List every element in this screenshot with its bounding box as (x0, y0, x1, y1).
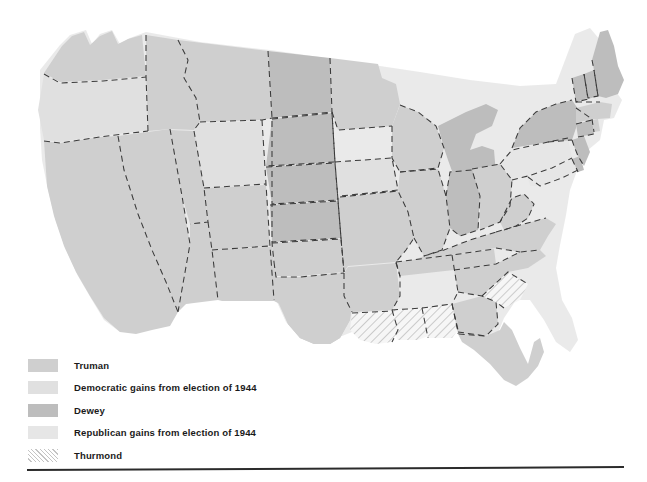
state-SD (266, 113, 335, 166)
election-map-figure: Truman Democratic gains from election of… (0, 0, 647, 482)
state-IN (446, 170, 480, 236)
state-ND (268, 51, 332, 118)
legend-label-dewey: Dewey (74, 406, 105, 416)
thurmond-swatch (28, 449, 58, 462)
dem-gains-swatch (28, 381, 58, 394)
state-NE (266, 163, 338, 204)
state-AR (344, 263, 400, 312)
state-OR (38, 74, 148, 142)
legend-label-thurmond: Thurmond (74, 451, 122, 461)
state-LA (350, 311, 398, 344)
legend-item-truman: Truman (28, 354, 328, 377)
rep-gains-swatch (28, 426, 58, 439)
legend-label-republican-gains: Republican gains from election of 1944 (74, 428, 256, 438)
legend-label-truman: Truman (74, 361, 109, 371)
state-CO (204, 185, 270, 250)
legend-item-republican-gains: Republican gains from election of 1944 (28, 422, 328, 445)
state-OK (272, 239, 344, 276)
legend-item-thurmond: Thurmond (28, 444, 328, 467)
dewey-swatch (28, 404, 58, 417)
legend-label-democratic-gains: Democratic gains from election of 1944 (74, 383, 257, 393)
map-legend: Truman Democratic gains from election of… (28, 354, 328, 467)
state-KS (270, 201, 341, 242)
legend-item-dewey: Dewey (28, 399, 328, 422)
state-WA (44, 31, 146, 82)
state-WY (194, 121, 266, 188)
truman-swatch (28, 359, 58, 372)
legend-item-democratic-gains: Democratic gains from election of 1944 (28, 377, 328, 400)
